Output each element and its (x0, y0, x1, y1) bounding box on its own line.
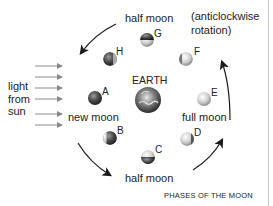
sunlight-arrows (35, 66, 62, 125)
moon-c-icon (141, 150, 155, 164)
new-moon-label: new moon (68, 111, 119, 123)
moon-e-letter: E (211, 88, 218, 98)
moon-b-icon (103, 131, 117, 145)
moon-f-icon (179, 52, 193, 66)
moon-d-icon (180, 132, 194, 146)
moon-a-icon (88, 91, 102, 105)
moon-phases-diagram: half moon (anticlockwise rotation) light… (0, 0, 273, 206)
orbit-arrow-bottom-left-icon (78, 143, 110, 175)
moon-d-letter: D (194, 128, 201, 138)
moon-h-icon (103, 52, 117, 66)
right-border-divider (268, 0, 269, 206)
rotation-note-line1: (anticlockwise (191, 10, 259, 22)
moon-b-letter: B (117, 126, 124, 136)
moon-e-icon (197, 92, 211, 106)
light-label: light (8, 80, 28, 92)
top-half-moon-label: half moon (125, 12, 173, 24)
moon-g-letter: G (154, 29, 162, 39)
moon-g-icon (140, 33, 154, 47)
orbit-arrow-top-left-icon (81, 24, 116, 53)
earth-icon (135, 87, 161, 113)
earth-label: EARTH (132, 74, 167, 86)
bottom-half-moon-label: half moon (125, 172, 173, 184)
rotation-note-line2: rotation) (191, 24, 231, 36)
moon-c-letter: C (155, 145, 162, 155)
diagram-title: PHASES OF THE MOON (164, 191, 253, 200)
orbit-arrow-bottom-right-icon (193, 140, 222, 170)
sun-label: sun (8, 105, 26, 117)
moon-h-letter: H (116, 47, 123, 57)
full-moon-label: full moon (182, 111, 227, 123)
from-label: from (8, 93, 30, 105)
moon-f-letter: F (194, 47, 200, 57)
moon-a-letter: A (102, 87, 109, 97)
